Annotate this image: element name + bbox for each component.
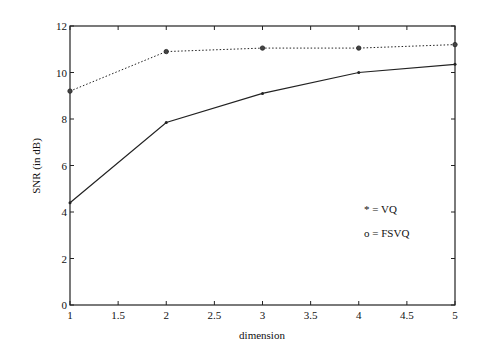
legend: * = VQ o = FSVQ	[364, 203, 409, 239]
y-axis-ticks: 024681012	[56, 20, 455, 311]
legend-entry-vq: * = VQ	[364, 203, 397, 215]
y-tick-label: 10	[56, 67, 68, 79]
series-layer	[68, 42, 457, 204]
plot-border	[70, 26, 455, 305]
data-point-vq	[261, 92, 264, 95]
data-point-fsvq	[453, 42, 457, 46]
y-axis-label: SNR (in dB)	[30, 138, 43, 194]
x-tick-label: 3.5	[304, 309, 318, 321]
y-tick-label: 12	[56, 20, 67, 32]
x-tick-label: 4	[356, 309, 362, 321]
x-tick-label: 5	[452, 309, 458, 321]
x-tick-label: 1.5	[111, 309, 125, 321]
data-point-fsvq	[68, 89, 72, 93]
legend-entry-fsvq: o = FSVQ	[364, 227, 409, 239]
x-axis-label: dimension	[239, 329, 285, 341]
snr-line-chart: 11.522.533.544.55 024681012 dimension SN…	[0, 0, 481, 362]
x-tick-label: 2	[164, 309, 170, 321]
y-tick-label: 0	[62, 299, 68, 311]
y-tick-label: 8	[62, 113, 68, 125]
data-point-vq	[165, 121, 168, 124]
data-point-vq	[357, 71, 360, 74]
y-tick-label: 4	[62, 206, 68, 218]
series-line-vq	[70, 64, 455, 202]
plot-frame	[70, 26, 455, 305]
data-point-fsvq	[164, 49, 168, 53]
data-point-fsvq	[357, 46, 361, 50]
x-tick-label: 4.5	[400, 309, 414, 321]
data-point-vq	[454, 63, 457, 66]
y-tick-label: 2	[62, 253, 68, 265]
x-tick-label: 2.5	[208, 309, 222, 321]
x-axis-ticks: 11.522.533.544.55	[67, 26, 458, 321]
x-tick-label: 1	[67, 309, 73, 321]
x-tick-label: 3	[260, 309, 266, 321]
data-point-vq	[69, 201, 72, 204]
y-tick-label: 6	[62, 160, 68, 172]
data-point-fsvq	[260, 46, 264, 50]
series-line-fsvq	[70, 45, 455, 92]
